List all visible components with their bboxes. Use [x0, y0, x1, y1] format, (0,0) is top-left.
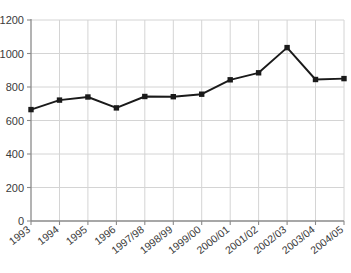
data-point-marker: [228, 77, 233, 82]
data-point-marker: [171, 94, 176, 99]
y-axis-tick-label: 1000: [0, 48, 24, 60]
data-point-marker: [142, 94, 147, 99]
y-axis-tick-label: 200: [6, 182, 24, 194]
line-chart: 0200400600800100012001993199419951996199…: [0, 0, 351, 273]
y-axis-tick-label: 1200: [0, 14, 24, 26]
x-axis-tick-label: 1995: [63, 223, 89, 247]
y-axis-tick-label: 600: [6, 115, 24, 127]
data-point-marker: [85, 94, 90, 99]
x-axis-tick-label: 2004/05: [308, 223, 345, 256]
y-axis-tick-label: 800: [6, 81, 24, 93]
data-point-marker: [284, 45, 289, 50]
x-axis-tick-label: 1993: [6, 223, 32, 247]
data-point-marker: [57, 97, 62, 102]
chart-canvas: 0200400600800100012001993199419951996199…: [0, 0, 351, 273]
data-point-marker: [313, 77, 318, 82]
data-point-marker: [341, 76, 346, 81]
data-point-marker: [199, 92, 204, 97]
x-axis-tick-label: 1994: [35, 223, 61, 247]
y-axis-tick-label: 400: [6, 148, 24, 160]
data-point-marker: [114, 105, 119, 110]
data-line-series-1: [31, 48, 344, 110]
data-point-marker: [28, 107, 33, 112]
data-point-marker: [256, 70, 261, 75]
